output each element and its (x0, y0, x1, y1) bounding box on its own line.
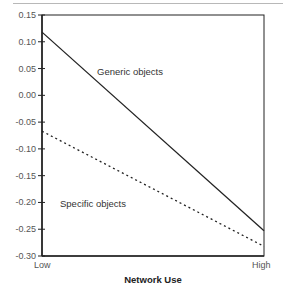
y-tick-label: -0.15 (15, 171, 36, 181)
y-tick-label: -0.30 (15, 251, 36, 261)
y-tick-label: 0.00 (18, 90, 36, 100)
annotation-specific-objects: Specific objects (60, 198, 126, 209)
y-tick-label: 0.05 (18, 64, 36, 74)
annotation-generic-objects: Generic objects (97, 66, 163, 77)
line-chart: 0.150.100.050.00-0.05-0.10-0.15-0.20-0.2… (0, 0, 283, 291)
x-tick-low: Low (34, 260, 51, 270)
y-tick-label: -0.25 (15, 224, 36, 234)
series-specific-objects-line (42, 131, 264, 246)
y-tick-label: 0.15 (18, 10, 36, 20)
y-tick-label: -0.20 (15, 197, 36, 207)
x-tick-high: High (252, 260, 271, 270)
y-tick-label: 0.10 (18, 37, 36, 47)
plot-frame (42, 15, 264, 256)
y-axis-ticks: 0.150.100.050.00-0.05-0.10-0.15-0.20-0.2… (15, 10, 45, 261)
y-tick-label: -0.10 (15, 144, 36, 154)
x-axis-label: Network Use (124, 274, 182, 285)
y-tick-label: -0.05 (15, 117, 36, 127)
